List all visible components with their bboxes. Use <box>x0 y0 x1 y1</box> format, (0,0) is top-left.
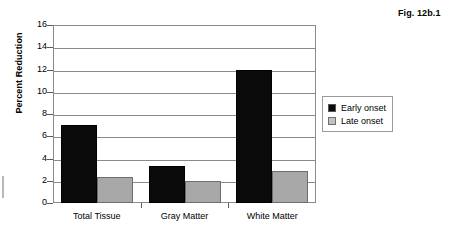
y-tick-mark <box>47 181 53 182</box>
y-tick-mark <box>47 203 53 204</box>
y-tick-mark <box>47 136 53 137</box>
bar-white-matter-late-onset <box>272 171 308 203</box>
y-tick-mark <box>47 159 53 160</box>
y-tick-mark <box>47 92 53 93</box>
y-tick-label: 16 <box>17 20 47 29</box>
gridline <box>54 115 315 116</box>
x-tick-mark <box>141 203 142 208</box>
bar-total-tissue-late-onset <box>97 177 133 203</box>
figure-caption: Fig. 12b.1 <box>398 8 441 18</box>
legend-label: Late onset <box>341 116 383 126</box>
y-tick-label: 14 <box>17 42 47 51</box>
y-tick-label: 6 <box>17 131 47 140</box>
y-tick-label: 0 <box>17 198 47 207</box>
gridline <box>54 48 315 49</box>
bar-white-matter-early-onset <box>236 70 272 204</box>
bar-gray-matter-late-onset <box>185 181 221 203</box>
legend-swatch-icon <box>328 104 336 112</box>
y-tick-mark <box>47 47 53 48</box>
legend-label: Early onset <box>341 103 386 113</box>
chart-legend: Early onsetLate onset <box>322 96 393 132</box>
y-tick-mark <box>47 25 53 26</box>
y-tick-label: 12 <box>17 65 47 74</box>
left-edge-artifact <box>2 176 4 198</box>
x-category-label: White Matter <box>212 211 332 221</box>
bar-gray-matter-early-onset <box>149 166 185 203</box>
y-tick-label: 2 <box>17 176 47 185</box>
gridline <box>54 71 315 72</box>
y-tick-mark <box>47 114 53 115</box>
bar-total-tissue-early-onset <box>61 125 97 203</box>
legend-item-late-onset: Late onset <box>328 114 386 127</box>
y-tick-label: 8 <box>17 109 47 118</box>
y-tick-label: 4 <box>17 154 47 163</box>
y-tick-label: 10 <box>17 87 47 96</box>
legend-swatch-icon <box>328 117 336 125</box>
figure-root: Fig. 12b.1 Percent Reduction 02468101214… <box>0 0 474 240</box>
x-tick-mark <box>228 203 229 208</box>
legend-item-early-onset: Early onset <box>328 101 386 114</box>
y-tick-mark <box>47 70 53 71</box>
gridline <box>54 93 315 94</box>
